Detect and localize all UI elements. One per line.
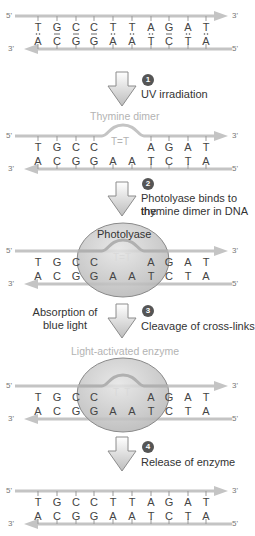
base: A <box>182 392 194 403</box>
step-badge-2: 2 <box>142 178 154 190</box>
base: A <box>182 22 194 33</box>
step-4-label: Release of enzyme <box>141 456 235 469</box>
base: A <box>32 156 44 167</box>
base: T <box>182 511 194 522</box>
three-prime-label: 3' <box>232 246 238 255</box>
five-prime-label: 5' <box>232 519 238 528</box>
thymine-dimer-label: T=T <box>113 252 131 263</box>
base: A <box>126 406 138 417</box>
three-prime-label: 3' <box>232 131 238 140</box>
base: A <box>126 36 138 47</box>
base: C <box>51 36 63 47</box>
base: A <box>200 406 212 417</box>
base: C <box>88 497 100 508</box>
three-prime-label: 3' <box>8 164 14 173</box>
base: A <box>107 156 119 167</box>
three-prime-label: 3' <box>8 414 14 423</box>
base: C <box>163 511 175 522</box>
base: T <box>126 497 138 508</box>
base: G <box>163 497 175 508</box>
base: T <box>200 392 212 403</box>
thymine-dimer-label: T=T <box>111 136 129 148</box>
photolyase-label: Photolyase <box>97 228 151 241</box>
base: T <box>126 22 138 33</box>
base: A <box>32 406 44 417</box>
three-prime-label: 3' <box>232 11 238 20</box>
base: G <box>88 156 100 167</box>
five-prime-label: 5' <box>232 414 238 423</box>
base: A <box>200 511 212 522</box>
absorption-label-line2: blue light <box>30 319 100 332</box>
base: G <box>88 406 100 417</box>
base: G <box>70 156 82 167</box>
five-prime-label: 5' <box>232 164 238 173</box>
base: A <box>200 36 212 47</box>
base: G <box>163 392 175 403</box>
base: C <box>163 156 175 167</box>
thymine-dimer-label: T T <box>113 387 130 398</box>
base: C <box>51 406 63 417</box>
base: C <box>70 257 82 268</box>
base: G <box>88 271 100 282</box>
base: T <box>32 22 44 33</box>
base: T <box>145 511 157 522</box>
step-2-label-line2: thymine dimer in DNA <box>141 205 248 218</box>
base: G <box>163 257 175 268</box>
base: C <box>70 22 82 33</box>
base: A <box>32 36 44 47</box>
base: T <box>32 392 44 403</box>
base: A <box>107 271 119 282</box>
absorption-label-line1: Absorption of <box>30 306 100 319</box>
base: G <box>70 36 82 47</box>
base: C <box>70 142 82 153</box>
base: C <box>163 36 175 47</box>
base: G <box>70 511 82 522</box>
base: A <box>32 271 44 282</box>
base: C <box>70 497 82 508</box>
base: A <box>107 36 119 47</box>
five-prime-label: 5' <box>6 131 12 140</box>
base: A <box>182 257 194 268</box>
five-prime-label: 5' <box>6 11 12 20</box>
base: A <box>145 257 157 268</box>
base: C <box>51 156 63 167</box>
base: A <box>126 156 138 167</box>
three-prime-label: 3' <box>232 381 238 390</box>
base: T <box>107 497 119 508</box>
base: C <box>163 406 175 417</box>
base: G <box>51 142 63 153</box>
down-arrow-icon <box>108 182 138 218</box>
base: A <box>32 511 44 522</box>
step-3-label: Cleavage of cross-links <box>141 320 255 333</box>
base: A <box>182 497 194 508</box>
base: A <box>145 497 157 508</box>
base: T <box>182 271 194 282</box>
base: G <box>88 511 100 522</box>
base: C <box>70 392 82 403</box>
three-prime-label: 3' <box>8 44 14 53</box>
base: C <box>163 271 175 282</box>
base: T <box>200 22 212 33</box>
five-prime-label: 5' <box>6 486 12 495</box>
base: T <box>200 257 212 268</box>
base: C <box>88 392 100 403</box>
step-badge-4: 4 <box>142 441 154 453</box>
down-arrow-icon <box>108 72 138 108</box>
base: T <box>107 22 119 33</box>
base: G <box>70 271 82 282</box>
base: T <box>145 406 157 417</box>
three-prime-label: 3' <box>232 486 238 495</box>
down-arrow-icon <box>108 304 138 340</box>
base: T <box>200 497 212 508</box>
five-prime-label: 5' <box>6 246 12 255</box>
base: T <box>32 257 44 268</box>
base: G <box>51 257 63 268</box>
step-badge-1: 1 <box>142 74 154 86</box>
five-prime-label: 5' <box>232 279 238 288</box>
down-arrow-icon <box>108 437 138 473</box>
base: C <box>51 511 63 522</box>
three-prime-label: 3' <box>8 279 14 288</box>
base: A <box>145 392 157 403</box>
five-prime-label: 5' <box>232 44 238 53</box>
base: A <box>145 22 157 33</box>
